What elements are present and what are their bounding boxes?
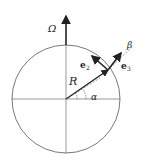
sphere-diagram: Ω R α β e 2 e 3 [0,0,147,164]
beta-label: β [126,40,132,50]
e3-vector [108,53,121,70]
e2-subscript: 2 [86,64,90,71]
angle-arc-alpha [83,89,86,99]
alpha-label: α [91,92,97,102]
e3-subscript: 3 [127,65,131,72]
e2-vector [92,56,108,70]
omega-label: Ω [47,23,56,34]
radius-label: R [68,75,77,88]
